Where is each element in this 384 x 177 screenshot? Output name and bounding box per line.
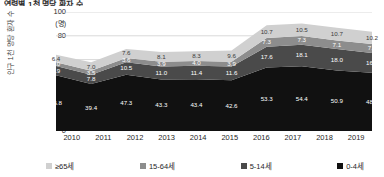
x-axis-tick: 2011 [88, 133, 120, 145]
legend-swatch-icon [140, 163, 146, 169]
legend-swatch-icon [46, 163, 52, 169]
legend-label: 5-14세 [250, 160, 272, 171]
legend-swatch-icon [241, 163, 247, 169]
legend-item-age15_64[interactable]: 15-64세 [140, 160, 175, 171]
legend-item-age5_14[interactable]: 5-14세 [241, 160, 272, 171]
stacked-area-svg [56, 12, 372, 131]
plot-area: 46.839.447.343.343.442.653.354.450.948.9… [56, 12, 372, 131]
y-axis-title: 인구 1천 명당 환자 수 [5, 0, 15, 95]
legend-label: 0-4세 [346, 160, 364, 171]
legend-label: ≥65세 [55, 160, 74, 171]
x-axis-tick: 2015 [214, 133, 246, 145]
x-axis-ticks: 2010201120122013201420152016201720182019 [56, 133, 372, 145]
x-axis-tick: 2016 [246, 133, 278, 145]
x-axis-tick: 2010 [56, 133, 88, 145]
x-axis-tick: 2018 [309, 133, 341, 145]
x-axis-tick: 2017 [277, 133, 309, 145]
x-axis-tick: 2014 [182, 133, 214, 145]
legend-item-age0_4[interactable]: 0-4세 [337, 160, 364, 171]
legend-item-age65[interactable]: ≥65세 [46, 160, 74, 171]
legend-label: 15-64세 [149, 160, 175, 171]
chart-card: 연령별 1천 명당 환자 수 인구 1천 명당 환자 수 10080604020… [0, 0, 384, 177]
chart-legend: ≥65세15-64세5-14세0-4세 [46, 160, 364, 171]
x-axis-tick: 2013 [151, 133, 183, 145]
legend-swatch-icon [337, 163, 343, 169]
x-axis-tick: 2012 [119, 133, 151, 145]
x-axis-tick: 2019 [340, 133, 372, 145]
chart-title: 연령별 1천 명당 환자 수 [4, 0, 83, 6]
